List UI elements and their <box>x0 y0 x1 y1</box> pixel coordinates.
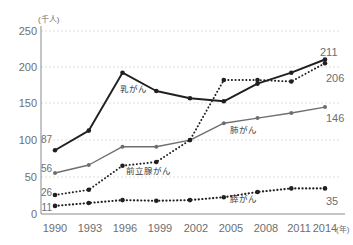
series-layer <box>53 57 328 208</box>
data-point <box>154 89 159 94</box>
data-point <box>222 99 227 104</box>
gridlines <box>41 31 340 177</box>
data-point <box>53 171 57 175</box>
x-tick-1993: 1993 <box>78 222 102 234</box>
x-tick-2002: 2002 <box>184 222 208 234</box>
y-tick-50: 50 <box>25 171 37 183</box>
data-point <box>87 188 92 193</box>
data-point <box>222 78 227 83</box>
data-point <box>255 81 260 86</box>
x-tick-1996: 1996 <box>113 222 137 234</box>
y-axis-unit-label: (千人) <box>38 14 60 24</box>
series-line <box>55 188 325 206</box>
y-tick-labels: 250 200 150 100 50 0 <box>19 25 37 220</box>
x-axis-unit-label: (年) <box>336 224 350 234</box>
line-chart: (千人) 250 200 150 100 50 0 1990 1993 1996… <box>0 0 353 245</box>
end-value-labels: 211 206 146 35 <box>320 46 344 207</box>
data-point <box>289 111 293 115</box>
data-point <box>289 70 294 75</box>
data-point <box>289 186 294 191</box>
y-tick-100: 100 <box>19 134 37 146</box>
x-tick-2011: 2011 <box>287 222 311 234</box>
series-annotations: 乳がん 前立腺がん 肺がん 膵がん <box>120 84 257 204</box>
end-label-prostate: 206 <box>326 72 344 84</box>
data-point <box>323 186 328 191</box>
data-point <box>154 160 159 165</box>
start-label-breast: 87 <box>41 134 53 145</box>
x-tick-labels: 1990 1993 1996 1999 2002 2005 2008 2011 … <box>43 222 350 234</box>
data-point <box>87 128 92 133</box>
x-tick-2014: 2014 <box>313 222 337 234</box>
data-point <box>53 193 58 198</box>
series-line <box>55 63 325 195</box>
end-label-lung: 146 <box>326 112 344 124</box>
data-point <box>120 198 125 203</box>
start-value-labels: 87 56 26 11 <box>41 134 53 213</box>
x-tick-2005: 2005 <box>219 222 243 234</box>
data-point <box>222 121 226 125</box>
annotation-pancreas: 膵がん <box>230 194 257 204</box>
y-tick-200: 200 <box>19 61 37 73</box>
end-label-breast: 211 <box>320 46 338 58</box>
data-point <box>222 195 227 200</box>
x-tick-1999: 1999 <box>148 222 172 234</box>
annotation-breast: 乳がん <box>120 84 147 94</box>
data-point <box>120 163 125 168</box>
x-tick-2008: 2008 <box>254 222 278 234</box>
data-point <box>87 201 92 206</box>
y-tick-0: 0 <box>31 208 37 220</box>
annotation-lung: 肺がん <box>230 125 257 135</box>
start-label-prostate: 26 <box>41 187 53 198</box>
data-point <box>188 96 193 101</box>
start-label-lung: 56 <box>41 163 53 174</box>
end-label-pancreas: 35 <box>326 195 338 207</box>
y-tick-250: 250 <box>19 25 37 37</box>
data-point <box>289 79 294 84</box>
data-point <box>256 116 260 120</box>
data-point <box>154 145 158 149</box>
y-tick-150: 150 <box>19 97 37 109</box>
data-point <box>154 199 159 204</box>
series-line <box>55 60 325 151</box>
data-point <box>120 70 125 75</box>
data-point <box>87 163 91 167</box>
data-point <box>53 204 58 209</box>
start-label-pancreas: 11 <box>42 202 53 213</box>
chart-canvas: (千人) 250 200 150 100 50 0 1990 1993 1996… <box>0 0 353 245</box>
data-point <box>188 138 193 143</box>
x-tick-1990: 1990 <box>43 222 67 234</box>
data-point <box>323 105 327 109</box>
series-3 <box>53 186 328 208</box>
data-point <box>53 148 58 153</box>
annotation-prostate: 前立腺がん <box>126 166 171 176</box>
data-point <box>188 198 193 203</box>
data-point <box>121 145 125 149</box>
